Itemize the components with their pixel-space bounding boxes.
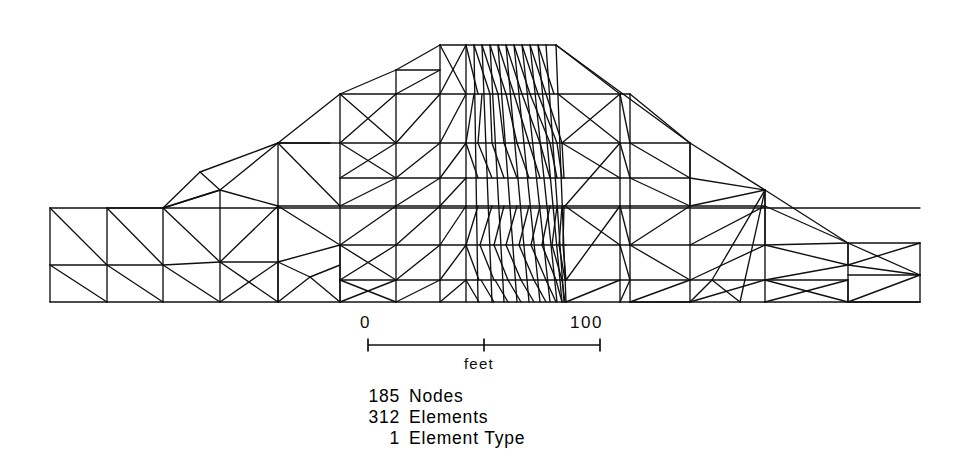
mesh-edge [466, 94, 474, 143]
mesh-edge [620, 280, 630, 302]
stat-label-element-type: Element Type [409, 428, 525, 448]
mesh-edge [690, 190, 765, 206]
mesh-edge [478, 143, 492, 178]
mesh-edge [630, 178, 690, 206]
stat-count-element-type: 1 [360, 428, 400, 449]
mesh-edge [565, 206, 620, 245]
mesh-edge [765, 190, 848, 243]
mesh-edge [562, 143, 564, 178]
mesh-edge [396, 70, 440, 94]
mesh-edge [163, 208, 220, 262]
mesh-edge [163, 265, 220, 302]
mesh-edge [440, 94, 466, 143]
mesh-edge [396, 94, 440, 143]
mesh-edge [620, 143, 630, 178]
mesh-edge [566, 280, 620, 302]
mesh-edge [492, 143, 504, 178]
mesh-edge [529, 143, 540, 178]
mesh-edge [630, 245, 690, 280]
mesh-edge [163, 262, 220, 265]
mesh-edge [480, 245, 494, 280]
mesh-figure: { "figure": { "title": "finite-element-m… [0, 0, 969, 472]
mesh-edge [566, 206, 620, 280]
mesh-edge [440, 143, 466, 178]
mesh-edge [765, 206, 848, 243]
mesh-edge [278, 245, 340, 262]
mesh-edge [562, 143, 620, 178]
mesh-edge [630, 280, 690, 302]
mesh-edge [310, 277, 340, 302]
stat-row-elements: 312Elements [360, 407, 525, 428]
mesh-edge [620, 94, 630, 143]
mesh-edge [740, 190, 765, 302]
mesh-edge [200, 172, 220, 190]
mesh-edge [620, 206, 630, 245]
mesh-edge [396, 280, 440, 302]
mesh-edge [50, 208, 107, 265]
scale-label-hundred: 100 [570, 313, 603, 333]
mesh-edge [278, 262, 310, 277]
mesh-edge [514, 94, 529, 143]
mesh-edge [107, 265, 163, 302]
mesh-edge [396, 206, 440, 245]
mesh-edge [630, 94, 690, 143]
mesh-edge [440, 178, 466, 206]
mesh-edge [396, 45, 440, 70]
mesh-edge [478, 94, 482, 143]
mesh-edge [200, 143, 278, 172]
scale-bar-graphic [368, 339, 600, 352]
mesh-edge [848, 275, 920, 302]
mesh-edge [340, 206, 396, 245]
mesh-edge [765, 245, 848, 265]
mesh-edge [396, 178, 440, 206]
mesh-edge [440, 280, 466, 302]
stat-row-nodes: 185Nodes [360, 386, 525, 407]
mesh-edge [508, 280, 521, 302]
stat-row-element-type: 1Element Type [360, 428, 525, 449]
scale-unit-label: feet [464, 355, 494, 372]
mesh-edge [278, 277, 310, 302]
mesh-edge [559, 206, 562, 245]
mesh-element-lines [50, 45, 920, 302]
stat-label-elements: Elements [409, 407, 488, 427]
mesh-edge [340, 178, 396, 206]
mesh-edge [310, 265, 340, 277]
mesh-edge [278, 143, 340, 206]
mesh-edge [396, 143, 440, 178]
mesh-statistics: 185Nodes 312Elements 1Element Type [360, 386, 525, 449]
mesh-edge [220, 206, 278, 262]
mesh-edge [765, 265, 848, 280]
mesh-edge [690, 245, 765, 280]
mesh-edge [278, 94, 340, 143]
mesh-edge [517, 143, 529, 178]
mesh-edge [765, 243, 848, 245]
mesh-edge [220, 143, 278, 190]
mesh-edge [220, 190, 278, 206]
mesh-edge [50, 265, 107, 302]
mesh-edge [690, 143, 765, 190]
stat-count-nodes: 185 [360, 386, 400, 407]
mesh-edge [506, 206, 517, 245]
mesh-edge [490, 94, 492, 143]
stat-label-nodes: Nodes [409, 386, 464, 406]
mesh-edge [630, 143, 690, 178]
mesh-edge [396, 245, 440, 280]
mesh-edge [107, 208, 163, 265]
mesh-edge [440, 206, 466, 245]
mesh-edge [340, 70, 396, 94]
mesh-edge [565, 143, 620, 206]
stat-count-elements: 312 [360, 407, 400, 428]
scale-label-zero: 0 [360, 313, 371, 333]
mesh-edge [630, 206, 690, 245]
mesh-edge [440, 245, 466, 280]
mesh-edge [620, 245, 630, 280]
mesh-edge [712, 190, 765, 280]
mesh-edge [495, 280, 508, 302]
mesh-edge [690, 178, 765, 190]
mesh-edge [712, 280, 740, 302]
mesh-edge [848, 243, 920, 265]
mesh-edge [278, 206, 340, 245]
